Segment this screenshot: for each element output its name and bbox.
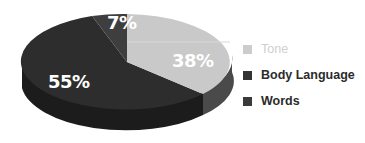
slice-label-tone: 38% xyxy=(172,50,214,71)
legend-item-tone: Tone xyxy=(243,36,355,62)
legend-label-body-language: Body Language xyxy=(261,68,355,82)
legend-item-words: Words xyxy=(243,88,355,114)
slice-label-words: 7% xyxy=(107,12,137,33)
slice-label-body-language: 55% xyxy=(48,71,90,92)
legend-swatch-body-language xyxy=(243,71,252,80)
chart-legend: Tone Body Language Words xyxy=(243,36,355,114)
legend-item-body-language: Body Language xyxy=(243,62,355,88)
legend-swatch-tone xyxy=(243,45,252,54)
pie-chart: 7% 38% 55% xyxy=(0,0,240,143)
legend-label-tone: Tone xyxy=(261,42,288,56)
legend-swatch-words xyxy=(243,97,252,106)
legend-label-words: Words xyxy=(261,94,300,108)
